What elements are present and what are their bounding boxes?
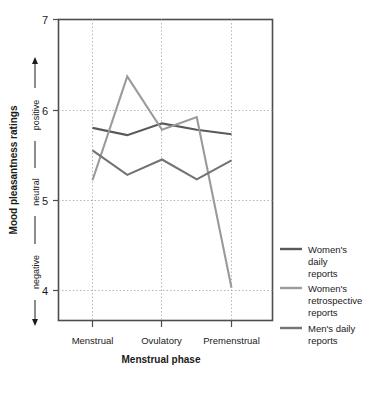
y-tick-label-6: 6 bbox=[42, 105, 48, 117]
legend-label-womens-retrospective-line2: retrospective bbox=[308, 295, 362, 306]
y-scale-label-neutral: neutral bbox=[31, 178, 41, 206]
mood-pleasantness-line-chart: 7 6 5 4 Menstrual Ovulatory Premenstrual… bbox=[0, 0, 374, 393]
y-axis-title: Mood pleasantness ratings bbox=[8, 105, 19, 234]
y-scale-label-negative: negative bbox=[31, 255, 41, 289]
legend-label-womens-daily-line1: Women's bbox=[308, 244, 347, 255]
legend-label-womens-retrospective-line1: Women's bbox=[308, 283, 347, 294]
x-axis-title: Menstrual phase bbox=[122, 354, 201, 365]
y-tick-label-7: 7 bbox=[42, 14, 48, 26]
x-category-label-menstrual: Menstrual bbox=[72, 335, 114, 346]
y-scale-label-positive: positive bbox=[31, 100, 41, 131]
legend-label-mens-daily-line1: Men's daily bbox=[308, 323, 355, 334]
legend-label-womens-daily-line3: reports bbox=[308, 268, 338, 279]
legend-label-womens-retrospective-line3: reports bbox=[308, 307, 338, 318]
x-category-label-premenstrual: Premenstrual bbox=[203, 335, 260, 346]
y-tick-label-4: 4 bbox=[42, 285, 48, 297]
legend-label-mens-daily-line2: reports bbox=[308, 335, 338, 346]
y-tick-label-5: 5 bbox=[42, 195, 48, 207]
legend-label-womens-daily-line2: daily bbox=[308, 256, 328, 267]
chart-figure: 7 6 5 4 Menstrual Ovulatory Premenstrual… bbox=[0, 0, 374, 393]
x-category-label-ovulatory: Ovulatory bbox=[141, 335, 182, 346]
